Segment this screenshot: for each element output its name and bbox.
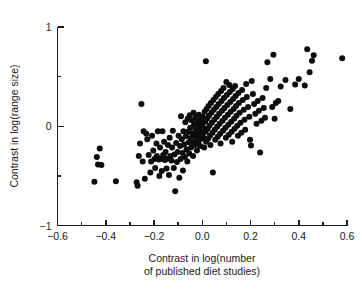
data-point	[98, 162, 104, 168]
data-point	[243, 81, 249, 87]
data-point	[159, 128, 165, 134]
data-point	[201, 145, 207, 151]
data-point	[167, 135, 173, 141]
data-point	[272, 116, 278, 122]
data-point	[296, 76, 302, 82]
x-tick-label: 0.6	[340, 230, 355, 242]
data-point	[147, 169, 153, 175]
data-point	[229, 139, 235, 145]
data-point	[143, 131, 149, 137]
data-point	[292, 82, 298, 88]
data-point	[210, 169, 216, 175]
data-point	[164, 165, 170, 171]
data-point	[239, 87, 245, 93]
data-point	[275, 98, 281, 104]
data-point	[152, 165, 158, 171]
data-point	[257, 150, 263, 156]
x-tick-label: 0.2	[243, 230, 258, 242]
data-point	[302, 83, 308, 89]
data-point	[242, 127, 248, 133]
data-point	[246, 114, 252, 120]
data-point	[178, 113, 184, 119]
x-tick-label: −0.4	[95, 230, 116, 242]
data-point	[171, 165, 177, 171]
data-point	[91, 179, 97, 185]
data-point	[166, 172, 172, 178]
data-point	[311, 52, 317, 58]
data-point	[138, 101, 144, 107]
data-point	[146, 152, 152, 158]
data-point	[180, 167, 186, 173]
y-axis-title: Contrast in log(range size)	[8, 64, 20, 187]
data-point	[142, 176, 148, 182]
data-point	[136, 153, 142, 159]
data-point	[163, 149, 169, 155]
x-tick-label: −0.2	[144, 230, 165, 242]
scatter-plot-figure: −0.6−0.4−0.20.00.20.40.6 −101 Contrast i…	[0, 0, 362, 291]
y-tick-label: 0	[46, 120, 52, 132]
data-point	[190, 153, 196, 159]
data-point	[250, 91, 256, 97]
data-point	[137, 141, 143, 147]
data-point	[97, 146, 103, 152]
data-point	[339, 55, 345, 61]
scatter-plot-svg: −0.6−0.4−0.20.00.20.40.6 −101 Contrast i…	[0, 0, 362, 291]
y-axis-tick-labels: −101	[40, 21, 52, 232]
data-point	[140, 158, 146, 164]
data-point	[270, 52, 276, 58]
x-tick-label: 0.0	[195, 230, 210, 242]
data-point	[263, 85, 269, 91]
data-point	[307, 69, 313, 75]
x-axis-tick-labels: −0.6−0.4−0.20.00.20.40.6	[47, 230, 354, 242]
x-axis-title-line1: Contrast in log(number	[149, 252, 256, 264]
data-points-group	[91, 46, 345, 194]
data-point	[170, 128, 176, 134]
data-point	[247, 137, 253, 143]
data-point	[113, 178, 119, 184]
data-point	[203, 58, 209, 64]
data-point	[287, 106, 293, 112]
data-point	[267, 76, 273, 82]
data-point	[262, 115, 268, 121]
data-point	[149, 133, 155, 139]
y-axis-ticks	[58, 27, 64, 226]
data-point	[309, 58, 315, 64]
data-point	[169, 145, 175, 151]
x-axis-ticks	[58, 220, 348, 226]
data-point	[245, 104, 251, 110]
data-point	[94, 154, 100, 160]
data-point	[168, 157, 174, 163]
x-tick-label: 0.4	[291, 230, 306, 242]
data-point	[144, 136, 150, 142]
data-point	[220, 85, 226, 91]
data-point	[304, 46, 310, 52]
data-point	[264, 59, 270, 65]
data-point	[232, 83, 238, 89]
data-point	[260, 95, 266, 101]
data-point	[184, 158, 190, 164]
data-point	[248, 143, 254, 149]
data-point	[157, 145, 163, 151]
data-point	[282, 77, 288, 83]
data-point	[249, 78, 255, 84]
data-point	[150, 148, 156, 154]
y-tick-label: −1	[40, 220, 52, 232]
data-point	[278, 84, 284, 90]
data-point	[207, 142, 213, 148]
data-point	[244, 94, 250, 100]
data-point	[135, 183, 141, 189]
data-point	[218, 141, 224, 147]
y-tick-label: 1	[46, 21, 52, 33]
data-point	[176, 175, 182, 181]
x-axis-title-line2: of published diet studies)	[144, 265, 260, 277]
data-point	[172, 188, 178, 194]
data-point	[261, 105, 267, 111]
